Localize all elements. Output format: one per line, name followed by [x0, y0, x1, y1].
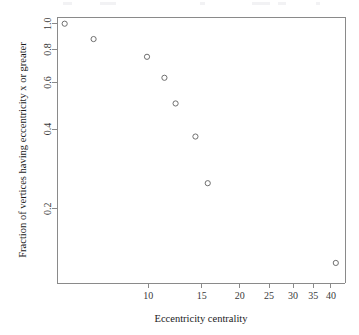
x-tick-label: 25: [264, 290, 274, 301]
data-point: [333, 260, 338, 265]
chart-figure: 0.20.40.60.81.0 10152025303540 Eccentric…: [0, 0, 359, 335]
x-tick-label: 15: [197, 290, 207, 301]
x-axis-title: Eccentricity centrality: [155, 313, 249, 324]
y-tick-label: 0.8: [43, 43, 54, 56]
y-tick-label: 0.6: [43, 76, 54, 89]
y-tick-label: 0.2: [43, 203, 54, 216]
y-axis-title: Fraction of vertices having eccentricity…: [17, 42, 28, 258]
data-point: [144, 54, 149, 59]
data-points: [62, 21, 338, 265]
data-point: [162, 75, 167, 80]
y-tick-label: 1.0: [43, 17, 54, 30]
x-tick-label: 30: [288, 290, 298, 301]
y-tick-label: 0.4: [43, 123, 54, 136]
data-point: [173, 101, 178, 106]
plot-frame: [57, 17, 345, 283]
data-point: [91, 36, 96, 41]
data-point: [205, 181, 210, 186]
y-axis-ticks: 0.20.40.60.81.0: [43, 17, 58, 215]
scatter-plot-svg: 0.20.40.60.81.0 10152025303540 Eccentric…: [0, 0, 359, 335]
x-tick-label: 35: [308, 290, 318, 301]
cropped-title-artifact: [63, 2, 320, 5]
x-tick-label: 40: [326, 290, 336, 301]
data-point: [62, 21, 67, 26]
x-axis-ticks: 10152025303540: [143, 283, 336, 301]
data-point: [193, 134, 198, 139]
x-tick-label: 20: [235, 290, 245, 301]
x-tick-label: 10: [143, 290, 153, 301]
